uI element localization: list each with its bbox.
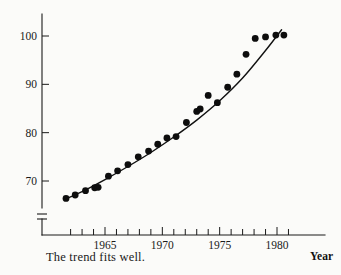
data-point	[135, 153, 142, 160]
data-point	[183, 119, 190, 126]
x-tick-label: 1970	[151, 239, 174, 251]
data-point	[197, 106, 204, 113]
data-point	[214, 99, 221, 106]
data-point	[82, 187, 89, 194]
y-tick-label: 80	[26, 127, 38, 139]
y-tick-labels: 100908070	[20, 30, 38, 187]
data-point	[233, 71, 240, 78]
data-point	[154, 141, 161, 148]
x-axis-title: Year	[310, 250, 333, 262]
data-point	[95, 184, 102, 191]
data-point	[114, 167, 121, 174]
data-point	[72, 192, 79, 199]
data-point-series	[63, 32, 288, 202]
x-axis	[42, 227, 325, 235]
data-point	[105, 173, 112, 180]
data-point	[224, 84, 231, 91]
data-point	[145, 148, 152, 155]
y-tick-label: 100	[20, 30, 38, 42]
data-point	[125, 161, 132, 168]
y-axis	[37, 14, 49, 235]
data-point	[164, 135, 171, 142]
data-point	[243, 51, 250, 58]
data-point	[280, 32, 287, 39]
chart-figure: 100908070 1965197019751980 The trend fit…	[0, 0, 341, 275]
data-point	[63, 195, 70, 202]
data-point	[272, 32, 279, 39]
chart-plot-area: 100908070 1965197019751980	[0, 0, 341, 275]
x-tick-label: 1980	[266, 239, 289, 251]
data-point	[262, 34, 269, 41]
data-point	[252, 35, 259, 42]
chart-caption: The trend fits well.	[46, 250, 145, 265]
data-point	[173, 133, 180, 140]
y-tick-label: 70	[26, 175, 38, 187]
y-tick-label: 90	[26, 78, 38, 90]
x-tick-label: 1975	[208, 239, 231, 251]
data-point	[205, 92, 212, 99]
